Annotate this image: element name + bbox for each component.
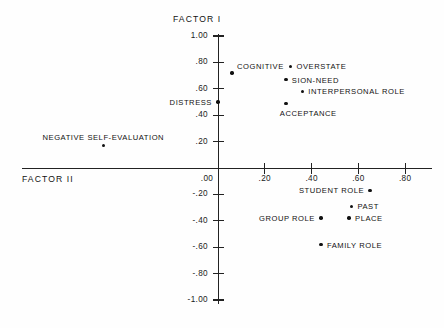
x-tick-label: .80 xyxy=(385,174,425,183)
horizontal-axis-line xyxy=(22,168,432,169)
y-tick-label: -1.00 xyxy=(166,295,208,304)
y-tick-mark xyxy=(213,299,224,300)
data-point-label: NEGATIVE SELF-EVALUATION xyxy=(43,133,165,142)
x-tick-label: .40 xyxy=(292,174,332,183)
data-point xyxy=(350,205,353,208)
data-point xyxy=(319,243,322,246)
horizontal-axis-title: FACTOR II xyxy=(22,174,74,184)
y-tick-mark xyxy=(213,141,224,142)
x-tick-mark xyxy=(405,163,406,174)
vertical-axis-title: FACTOR I xyxy=(173,14,221,24)
data-point xyxy=(284,102,287,105)
data-point xyxy=(368,189,371,192)
y-tick-mark xyxy=(213,194,224,195)
data-point xyxy=(284,78,287,81)
y-tick-label: -.20 xyxy=(166,189,208,198)
data-point-label: ACCEPTANCE xyxy=(280,109,337,118)
data-point xyxy=(102,144,105,147)
x-tick-mark xyxy=(358,163,359,174)
data-point-label: SION-NEED xyxy=(292,76,339,85)
x-tick-label: .00 xyxy=(187,174,227,183)
x-tick-label: .60 xyxy=(338,174,378,183)
y-tick-label: .60 xyxy=(166,84,208,93)
y-tick-label: .80 xyxy=(166,57,208,66)
y-tick-label: .20 xyxy=(166,137,208,146)
scatter-plot-figure: FACTOR I FACTOR II 1.00.80.60.40.20-.20-… xyxy=(0,0,444,328)
y-tick-mark xyxy=(213,115,224,116)
data-point xyxy=(301,90,304,93)
data-point-label: OVERSTATE xyxy=(297,62,347,71)
data-point-label: DISTRESS xyxy=(170,98,212,107)
data-point xyxy=(216,100,219,103)
x-tick-mark xyxy=(264,163,265,174)
y-tick-label: 1.00 xyxy=(166,31,208,40)
data-point-label: COGNITIVE xyxy=(237,62,284,71)
y-tick-label: -.80 xyxy=(166,269,208,278)
y-tick-label: .40 xyxy=(166,110,208,119)
data-point xyxy=(347,216,350,219)
data-point-label: FAMILY ROLE xyxy=(327,241,382,250)
data-point-label: PAST xyxy=(357,202,378,211)
y-tick-label: -.40 xyxy=(166,216,208,225)
y-tick-mark xyxy=(213,62,224,63)
data-point-label: PLACE xyxy=(355,214,383,223)
data-point xyxy=(319,216,322,219)
data-point-label: INTERPERSONAL ROLE xyxy=(308,87,405,96)
y-tick-mark xyxy=(213,35,224,36)
data-point-label: GROUP ROLE xyxy=(259,214,315,223)
y-tick-label: -.60 xyxy=(166,242,208,251)
x-tick-label: .20 xyxy=(245,174,285,183)
y-tick-mark xyxy=(213,220,224,221)
x-tick-mark xyxy=(311,163,312,174)
y-tick-mark xyxy=(213,88,224,89)
data-point-label: STUDENT ROLE xyxy=(299,186,364,195)
y-tick-mark xyxy=(213,273,224,274)
data-point xyxy=(230,71,233,74)
data-point xyxy=(289,65,292,68)
y-tick-mark xyxy=(213,247,224,248)
